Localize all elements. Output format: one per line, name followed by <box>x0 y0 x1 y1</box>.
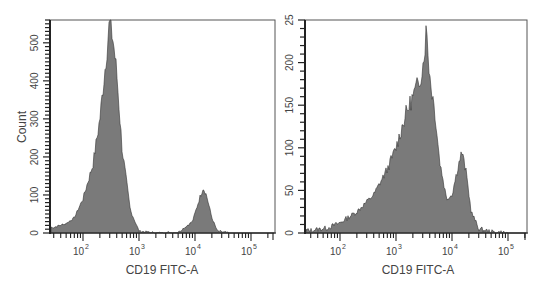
y-tick-label: 500 <box>29 34 40 51</box>
x-tick-label: 105 <box>241 243 257 257</box>
x-tick-label: 102 <box>73 243 89 257</box>
left-y-ticks: 0100200300400500 <box>29 20 50 236</box>
right-histogram-area <box>306 26 526 233</box>
y-tick-label: 100 <box>29 186 40 203</box>
left-histogram-panel: 0100200300400500 102103104105 Count CD19… <box>15 20 276 277</box>
y-tick-label: 100 <box>284 139 295 156</box>
left-x-ticks: 102103104105 <box>54 233 273 257</box>
x-tick-label: 102 <box>330 243 346 257</box>
x-tick-label: 105 <box>498 243 514 257</box>
right-x-ticks: 102103104105 <box>311 233 525 257</box>
x-tick-label: 104 <box>442 243 458 257</box>
x-tick-label: 103 <box>129 243 145 257</box>
right-x-axis-title: CD19 FITC-A <box>382 263 455 277</box>
y-tick-label: 50 <box>284 184 295 196</box>
left-y-axis-title: Count <box>15 110 29 143</box>
x-tick-label: 104 <box>185 243 201 257</box>
y-tick-label: 0 <box>284 230 295 236</box>
x-tick-label: 103 <box>386 243 402 257</box>
figure: 0100200300400500 102103104105 Count CD19… <box>0 0 542 285</box>
right-histogram-panel: 05010015020025 102103104105 CD19 FITC-A <box>284 14 528 277</box>
y-tick-label: 200 <box>284 54 295 71</box>
y-tick-label: 200 <box>29 148 40 165</box>
right-y-ticks: 05010015020025 <box>284 14 305 236</box>
y-tick-label: 400 <box>29 72 40 89</box>
y-tick-label: 25 <box>284 14 295 26</box>
y-tick-label: 300 <box>29 110 40 127</box>
y-tick-label: 150 <box>284 96 295 113</box>
left-histogram-area <box>51 20 274 233</box>
y-tick-label: 0 <box>29 230 40 236</box>
left-x-axis-title: CD19 FITC-A <box>126 263 199 277</box>
